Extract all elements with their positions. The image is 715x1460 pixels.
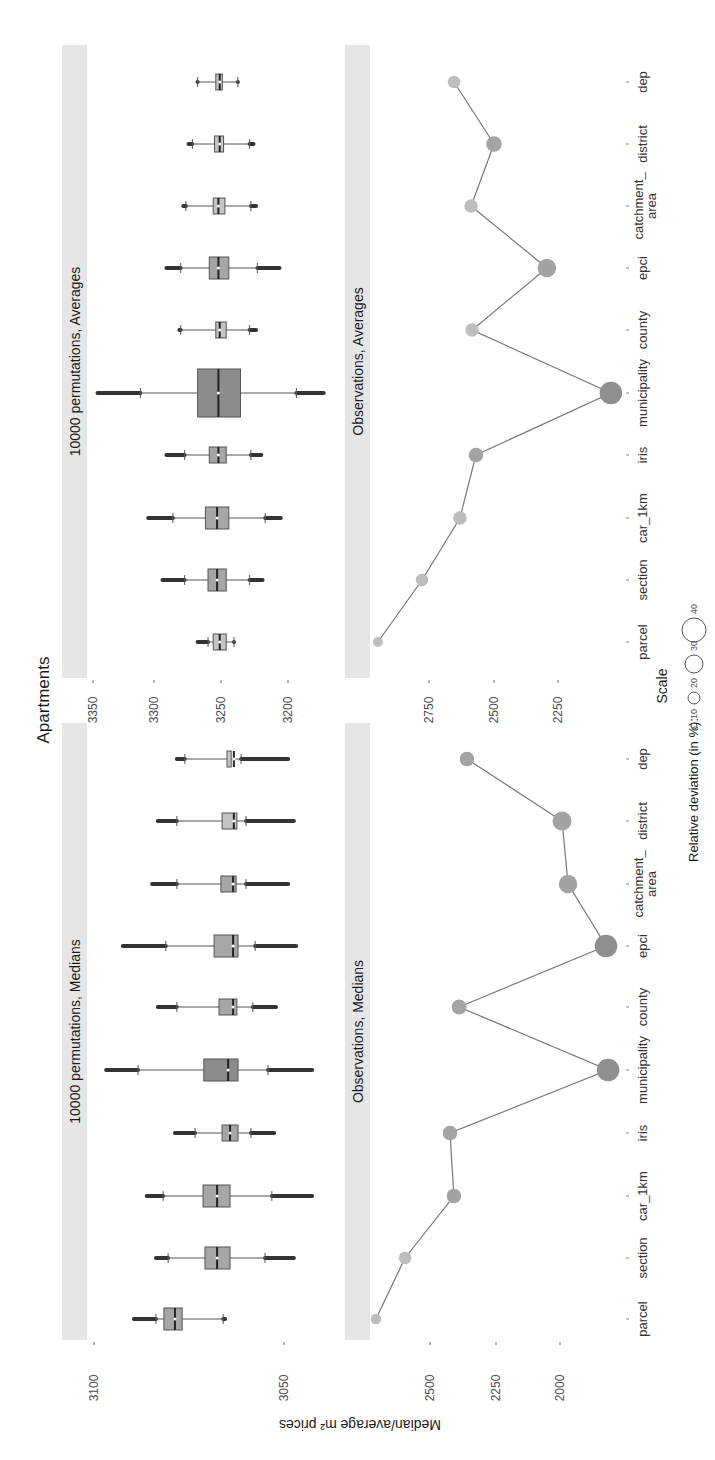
box: [227, 751, 231, 767]
category-label-8: district: [635, 125, 650, 163]
y-tick-label: 2000: [553, 1374, 567, 1401]
legend-size-20-icon: [688, 692, 700, 704]
mean-dot: [216, 579, 219, 582]
box: [204, 1059, 238, 1081]
category-label-4: municipality: [635, 359, 650, 427]
mean-dot: [218, 81, 221, 84]
boxplot-med-0: [134, 1308, 225, 1330]
obs-point-med-1: [399, 1252, 412, 1265]
obs-point-avg-9: [448, 76, 461, 89]
obs-line-med: [376, 759, 608, 1319]
mean-dot: [229, 1132, 232, 1135]
mean-dot: [232, 758, 235, 761]
mean-dot: [217, 392, 220, 395]
obs-point-med-4: [597, 1059, 620, 1082]
mean-dot: [218, 641, 221, 644]
mean-dot: [173, 1318, 176, 1321]
boxplot-med-1: [156, 1247, 294, 1269]
obs-point-med-2: [447, 1189, 462, 1204]
boxplot-avg-8: [189, 136, 254, 152]
obs-line-avg: [378, 82, 611, 642]
box: [164, 1308, 182, 1330]
obs-point-avg-0: [373, 637, 383, 647]
legend-title-text: Relative deviation (in %):: [686, 718, 701, 862]
boxplot-med-8: [158, 813, 294, 829]
category-label-2: car_1km: [635, 1171, 650, 1221]
boxplot-avg-1: [163, 569, 263, 591]
x-axis-title-text: Scale: [654, 668, 670, 703]
category-label-6: epci: [635, 934, 650, 958]
y-tick-label: 2500: [423, 1374, 437, 1401]
y-tick-label: 3050: [277, 1374, 291, 1401]
obs-point-med-6: [595, 935, 618, 958]
category-label-0: parcel: [635, 1301, 650, 1337]
strip-label-avg-perm: 10000 permutations, Averages: [67, 267, 83, 457]
mean-dot: [232, 883, 235, 886]
obs-point-med-9: [460, 752, 475, 767]
category-label-9: dep: [635, 748, 650, 770]
legend-size-10-label: 10: [689, 709, 699, 719]
boxplot-avg-3: [166, 447, 261, 463]
y-axis-title-text: Median/average m² prices: [279, 1417, 441, 1433]
category-label-1: section: [635, 1237, 650, 1278]
y-tick-label: 3100: [87, 1374, 101, 1401]
boxplot-avg-2: [148, 507, 281, 529]
boxplot-avg-6: [166, 257, 279, 279]
y-tick-label: 3200: [281, 696, 295, 723]
legend-size-40-label: 40: [689, 604, 699, 614]
boxplot-avg-5: [179, 322, 256, 338]
chart-title-text: Apartments: [34, 657, 53, 744]
category-label-1: section: [635, 559, 650, 600]
panel-group-med: 10000 permutations, MediansObservations,…: [62, 723, 659, 1401]
y-tick-label: 2500: [487, 696, 501, 723]
boxplot-med-5: [158, 999, 276, 1015]
obs-point-avg-3: [469, 448, 484, 463]
category-label-9: dep: [635, 71, 650, 93]
panel-group-avg: 10000 permutations, AveragesObservations…: [62, 45, 659, 723]
obs-point-avg-7: [464, 199, 478, 213]
obs-point-avg-1: [416, 574, 429, 587]
category-label-3: iris: [635, 1124, 650, 1141]
boxplot-avg-0: [198, 634, 234, 650]
legend-size-20-label: 20: [689, 678, 699, 688]
mean-dot: [216, 1257, 219, 1260]
boxplot-avg-4: [98, 369, 324, 417]
y-tick-label: 2750: [422, 696, 436, 723]
mean-dot: [216, 517, 219, 520]
obs-point-med-3: [443, 1126, 458, 1141]
mean-dot: [227, 1069, 230, 1072]
y-tick-label: 3250: [214, 696, 228, 723]
boxplot-med-3: [175, 1125, 274, 1141]
boxplot-med-4: [106, 1059, 312, 1081]
legend-size-40-icon: [682, 618, 706, 642]
category-label-7-line2: area: [644, 192, 659, 219]
category-label-5: county: [635, 987, 650, 1026]
category-label-8: district: [635, 802, 650, 840]
category-label-0: parcel: [635, 624, 650, 660]
mean-dot: [217, 454, 220, 457]
category-label-4: municipality: [635, 1036, 650, 1104]
category-label-2: car_1km: [635, 493, 650, 543]
category-label-5: county: [635, 310, 650, 349]
strip-label-med-obs: Observations, Medians: [350, 960, 366, 1103]
chart-root: 10000 permutations, AveragesObservations…: [0, 0, 715, 1460]
obs-point-med-5: [452, 1000, 467, 1015]
strip-label-med-perm: 10000 permutations, Medians: [67, 939, 83, 1123]
boxplot-avg-7: [183, 198, 256, 214]
boxplot-med-6: [123, 935, 296, 957]
mean-dot: [218, 329, 221, 332]
y-tick-label: 2250: [489, 1374, 503, 1401]
obs-point-med-8: [553, 812, 572, 831]
boxplot-med-7: [152, 876, 288, 892]
mean-dot: [218, 143, 221, 146]
category-label-3: iris: [635, 446, 650, 463]
legend: Relative deviation (in %):10203040: [682, 604, 706, 862]
obs-point-avg-2: [453, 511, 467, 525]
legend-size-30-icon: [685, 655, 703, 673]
mean-dot: [232, 820, 235, 823]
mean-dot: [217, 205, 220, 208]
obs-point-med-7: [559, 875, 578, 894]
mean-dot: [232, 1006, 235, 1009]
mean-dot: [216, 1195, 219, 1198]
obs-point-avg-5: [465, 323, 479, 337]
